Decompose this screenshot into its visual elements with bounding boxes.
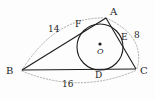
geometry-figure: A B C F E D O 14 8 16 xyxy=(0,0,155,99)
center-dot-icon xyxy=(98,42,101,45)
side-length-bc: 16 xyxy=(62,80,73,89)
side-ac xyxy=(106,18,136,69)
side-length-ab: 14 xyxy=(48,25,59,34)
vertex-label-a: A xyxy=(110,7,117,17)
tangent-label-f: F xyxy=(75,20,81,29)
side-bc xyxy=(22,69,136,70)
vertex-label-b: B xyxy=(6,66,13,76)
dotted-arc-bc xyxy=(22,70,137,83)
tangent-label-d: D xyxy=(95,71,102,80)
tangent-label-e: E xyxy=(121,33,128,42)
side-length-ac: 8 xyxy=(134,31,140,40)
center-label-o: O xyxy=(97,48,104,56)
vertex-label-c: C xyxy=(140,66,148,76)
geometry-canvas xyxy=(0,0,155,99)
side-ab xyxy=(22,18,106,70)
